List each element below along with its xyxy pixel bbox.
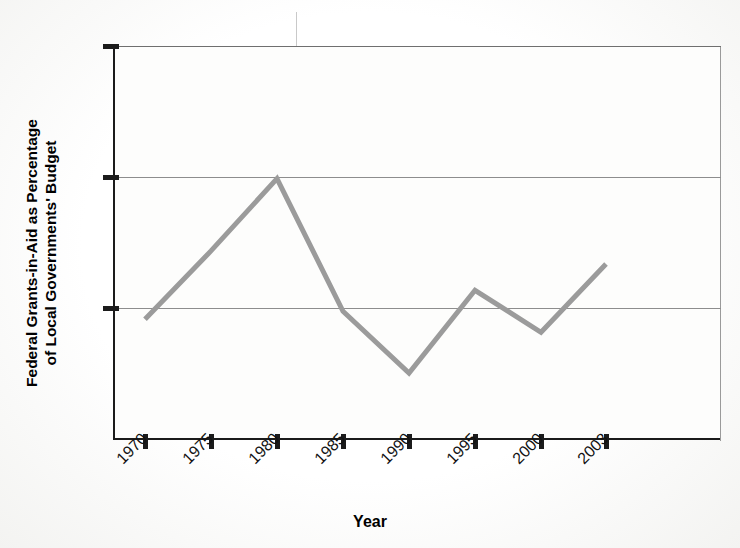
chart-figure: 50 40 30 20 1970 1975 1980 1985 1990 199… bbox=[0, 0, 740, 548]
ytick-mark-50 bbox=[103, 44, 119, 49]
y-axis-title-line1: Federal Grants-in-Aid as Percentage bbox=[23, 119, 40, 387]
y-axis-title-line2: of Local Governments' Budget bbox=[42, 141, 59, 366]
plot-area bbox=[113, 46, 720, 440]
ytick-mark-30 bbox=[103, 306, 119, 311]
y-axis-title: Federal Grants-in-Aid as Percentage of L… bbox=[22, 88, 60, 418]
gridline-50 bbox=[113, 46, 721, 47]
gridline-30 bbox=[113, 308, 721, 309]
gridline-40 bbox=[113, 177, 721, 178]
scan-artifact-mark bbox=[296, 12, 297, 48]
ytick-mark-40 bbox=[103, 175, 119, 180]
plot-frame-right bbox=[720, 46, 721, 441]
x-axis-title: Year bbox=[0, 513, 740, 531]
